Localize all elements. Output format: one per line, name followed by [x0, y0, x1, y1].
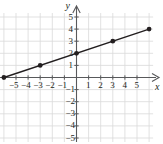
x-tick-label: 5	[135, 81, 140, 90]
y-tick-label: −3	[66, 109, 76, 118]
x-tick-label: 2	[98, 81, 103, 90]
y-tick-label: −1	[66, 85, 76, 94]
x-tick-label: 4	[122, 81, 127, 90]
x-tick-label: −4	[21, 81, 31, 90]
y-tick-label: −4	[66, 121, 76, 130]
x-tick-label: −2	[45, 81, 55, 90]
y-tick-label: 1	[69, 61, 74, 70]
y-tick-label: 5	[69, 13, 74, 22]
axis-lines	[0, 6, 159, 142]
y-tick-label: −2	[66, 97, 76, 106]
plot-area	[0, 0, 163, 144]
y-tick-label: 4	[69, 25, 74, 34]
y-tick-label: 3	[69, 37, 74, 46]
x-tick-label: 3	[110, 81, 115, 90]
coordinate-graph: −5−4−3−2−112345 54321−1−2−3−4−5 x y	[0, 0, 163, 144]
x-tick-label: −3	[33, 81, 43, 90]
y-axis-label: y	[66, 1, 70, 11]
y-tick-label: −5	[66, 134, 76, 143]
x-axis-label: x	[155, 82, 159, 92]
y-tick-label: 2	[69, 49, 74, 58]
x-tick-label: −5	[9, 81, 19, 90]
x-tick-label: 1	[86, 81, 91, 90]
